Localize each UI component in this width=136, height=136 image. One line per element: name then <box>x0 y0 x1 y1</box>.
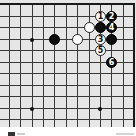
go-board: 123456 <box>0 0 136 127</box>
black-stone <box>49 34 60 45</box>
star-point <box>30 38 34 42</box>
white-stone-move-3: 3 <box>95 34 106 45</box>
grid-horizontal-line <box>0 119 134 120</box>
caption-text <box>17 133 25 135</box>
star-point <box>30 107 34 111</box>
caption-right-text <box>116 133 134 135</box>
board-right-edge <box>133 3 135 127</box>
grid-horizontal-line <box>0 50 134 51</box>
diagram-caption <box>0 128 136 136</box>
black-stone <box>106 34 117 45</box>
black-stone <box>95 22 106 33</box>
black-stone-move-6: 6 <box>106 57 117 68</box>
white-stone <box>84 22 95 33</box>
grid-horizontal-line <box>0 85 134 86</box>
grid-horizontal-line <box>0 96 134 97</box>
white-stone-move-5: 5 <box>95 45 106 56</box>
black-stone-move-2: 2 <box>106 11 117 22</box>
black-stone-move-4: 4 <box>106 22 117 33</box>
star-point <box>98 107 102 111</box>
white-stone <box>72 34 83 45</box>
white-stone-move-1: 1 <box>95 11 106 22</box>
black-square-icon <box>8 132 15 136</box>
grid-horizontal-line <box>0 73 134 74</box>
grid-horizontal-line <box>0 108 134 109</box>
board-top-edge <box>0 3 135 5</box>
